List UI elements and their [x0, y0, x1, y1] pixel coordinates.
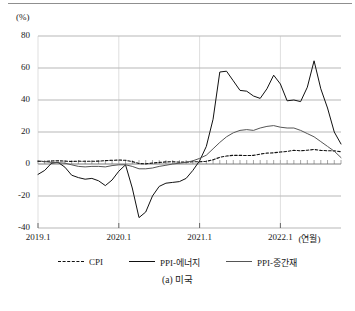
- legend-swatch-solid-gray-icon: [226, 258, 252, 266]
- y-tick-label: 0: [6, 158, 30, 168]
- figure-container: (%) -40-20020406080 2019.12020.12021.120…: [0, 0, 355, 311]
- legend-label-cpi: CPI: [89, 257, 103, 267]
- y-tick-label: 40: [6, 94, 30, 104]
- legend-item-ppi-energy: PPI-에너지: [129, 256, 200, 269]
- chart-legend: CPI PPI-에너지 PPI-중간재: [0, 253, 355, 271]
- x-tick-label: 2019.1: [8, 232, 68, 242]
- legend-swatch-dashed-icon: [58, 258, 84, 266]
- y-tick-label: 80: [6, 30, 30, 40]
- legend-label-ppi-intermediate: PPI-중간재: [257, 256, 297, 269]
- x-tick-label: 2020.1: [89, 232, 149, 242]
- legend-item-cpi: CPI: [58, 257, 103, 267]
- y-tick-label: 20: [6, 126, 30, 136]
- series-line-1: [38, 61, 341, 218]
- y-tick-label: -40: [6, 222, 30, 232]
- legend-label-ppi-energy: PPI-에너지: [160, 256, 200, 269]
- y-tick-label: 60: [6, 62, 30, 72]
- x-tick-label: 2021.1: [170, 232, 230, 242]
- legend-swatch-solid-black-icon: [129, 258, 155, 266]
- figure-caption: (a) 미국: [0, 272, 355, 286]
- legend-item-ppi-intermediate: PPI-중간재: [226, 256, 297, 269]
- gridlines-group: [38, 36, 341, 228]
- y-tick-label: -20: [6, 190, 30, 200]
- x-axis-unit-label: (연월): [298, 232, 320, 245]
- data-series-group: [38, 61, 341, 218]
